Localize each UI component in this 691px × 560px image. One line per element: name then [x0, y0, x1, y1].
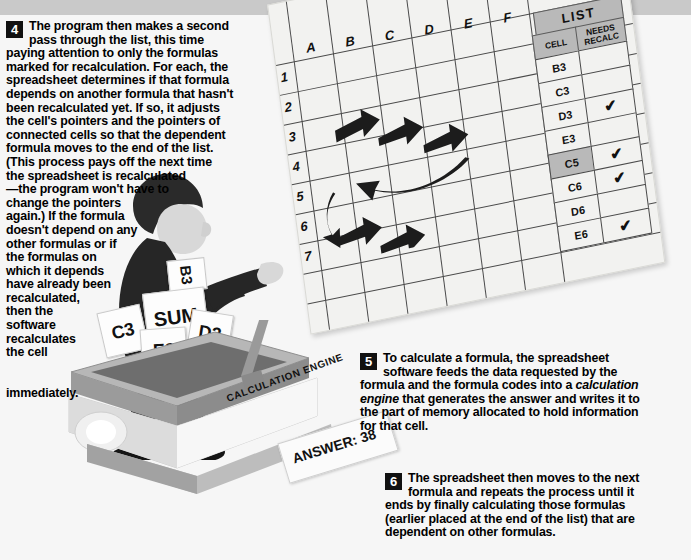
step-6-number: 6	[385, 473, 402, 490]
column-header-b: B	[345, 33, 356, 50]
step-4-text: The program then makes a second pass thr…	[6, 20, 236, 401]
step-4-number: 4	[6, 21, 23, 38]
row-header-3: 3	[288, 129, 297, 145]
column-header-a: A	[305, 39, 316, 56]
step-5-number: 5	[360, 353, 377, 370]
step-5-text: To calculate a formula, the spreadsheet …	[360, 352, 648, 434]
step-4: 4	[6, 20, 236, 401]
row-header-1: 1	[280, 69, 289, 85]
column-header-c: C	[384, 27, 395, 44]
step-5: 5 To calculate a formula, the spreadshee…	[360, 352, 686, 434]
column-header-d: D	[423, 21, 434, 38]
step-5-part2: that generates the answer and writes it …	[360, 392, 640, 433]
step-6-text: The spreadsheet then moves to the next f…	[385, 472, 653, 540]
column-header-f: F	[502, 9, 512, 25]
row-header-2: 2	[284, 99, 293, 115]
column-header-e: E	[463, 15, 473, 32]
page-canvas: A B C D E F 1 2 3 4 5 6 7	[0, 0, 691, 560]
step-6: 6 The spreadsheet then moves to the next…	[385, 472, 687, 540]
